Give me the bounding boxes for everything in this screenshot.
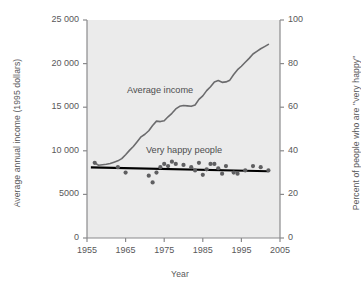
annotation-average-income: Average income bbox=[127, 85, 193, 95]
scatter-point bbox=[235, 172, 239, 176]
y-tick-label-left: 0 bbox=[33, 232, 79, 242]
plot-background bbox=[87, 20, 280, 238]
scatter-point bbox=[193, 168, 197, 172]
y-tick-label-left: 20 000 bbox=[33, 58, 79, 68]
scatter-point bbox=[205, 167, 209, 171]
scatter-point bbox=[124, 171, 128, 175]
scatter-point bbox=[158, 165, 162, 169]
scatter-point bbox=[151, 180, 155, 184]
scatter-point bbox=[212, 162, 216, 166]
y-tick-label-right: 40 bbox=[288, 145, 328, 155]
scatter-point bbox=[116, 165, 120, 169]
scatter-point bbox=[147, 174, 151, 178]
y-tick-label-right: 100 bbox=[288, 14, 328, 24]
scatter-point bbox=[93, 161, 97, 165]
scatter-point bbox=[220, 172, 224, 176]
scatter-point bbox=[232, 171, 236, 175]
x-tick-label: 2005 bbox=[257, 245, 303, 255]
y-tick-label-left: 10 000 bbox=[33, 145, 79, 155]
scatter-point bbox=[162, 162, 166, 166]
y-tick-label-left: 15 000 bbox=[33, 101, 79, 111]
scatter-point bbox=[201, 173, 205, 177]
y-tick-label-right: 0 bbox=[288, 232, 328, 242]
scatter-point bbox=[189, 165, 193, 169]
y-tick-label-right: 80 bbox=[288, 58, 328, 68]
y-tick-label-left: 5000 bbox=[33, 188, 79, 198]
y-tick-label-right: 60 bbox=[288, 101, 328, 111]
scatter-point bbox=[216, 166, 220, 170]
scatter-point bbox=[243, 168, 247, 172]
scatter-point bbox=[174, 162, 178, 166]
y-tick-label-right: 20 bbox=[288, 188, 328, 198]
x-axis-ticks bbox=[87, 238, 280, 242]
scatter-point bbox=[170, 160, 174, 164]
scatter-point bbox=[166, 164, 170, 168]
scatter-point bbox=[259, 165, 263, 169]
scatter-point bbox=[224, 164, 228, 168]
scatter-point bbox=[197, 161, 201, 165]
scatter-point bbox=[181, 163, 185, 167]
scatter-point bbox=[266, 168, 270, 172]
scatter-point bbox=[208, 162, 212, 166]
annotation-very-happy-people: Very happy people bbox=[146, 145, 222, 155]
scatter-point bbox=[251, 164, 255, 168]
y-tick-label-left: 25 000 bbox=[33, 14, 79, 24]
scatter-point bbox=[154, 171, 158, 175]
